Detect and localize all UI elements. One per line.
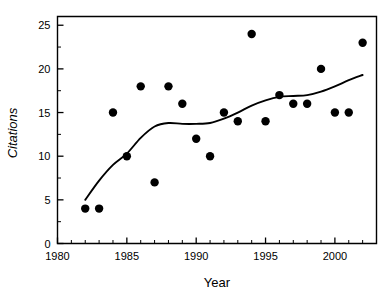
data-point: [275, 91, 283, 99]
data-point: [345, 108, 353, 116]
y-tick-label: 20: [38, 63, 50, 75]
data-point: [178, 100, 186, 108]
y-tick-label: 0: [44, 238, 50, 250]
x-tick-label: 1990: [184, 250, 208, 262]
data-point: [206, 152, 214, 160]
y-axis-title: Citations: [5, 107, 20, 158]
x-tick-label: 1985: [115, 250, 139, 262]
data-point: [289, 100, 297, 108]
x-axis-title: Year: [204, 275, 231, 290]
data-point: [303, 100, 311, 108]
data-point: [109, 108, 117, 116]
plot-canvas: 19801985199019952000 0510152025 Year Cit…: [0, 0, 390, 295]
y-tick-label: 5: [44, 194, 50, 206]
data-point: [317, 65, 325, 73]
data-point: [247, 30, 255, 38]
y-tick-label: 10: [38, 150, 50, 162]
citations-scatter-chart: 19801985199019952000 0510152025 Year Cit…: [0, 0, 390, 295]
data-point: [192, 135, 200, 143]
x-tick-label: 1995: [253, 250, 277, 262]
y-tick-label: 15: [38, 107, 50, 119]
data-point: [220, 108, 228, 116]
data-point: [261, 117, 269, 125]
data-point: [150, 178, 158, 186]
x-tick-label: 2000: [323, 250, 347, 262]
data-point: [123, 152, 131, 160]
data-point: [331, 108, 339, 116]
x-tick-label: 1980: [45, 250, 69, 262]
data-point: [137, 82, 145, 90]
data-point: [358, 38, 366, 46]
data-point: [81, 204, 89, 212]
data-point: [234, 117, 242, 125]
data-point: [164, 82, 172, 90]
y-tick-label: 25: [38, 19, 50, 31]
data-point: [95, 204, 103, 212]
